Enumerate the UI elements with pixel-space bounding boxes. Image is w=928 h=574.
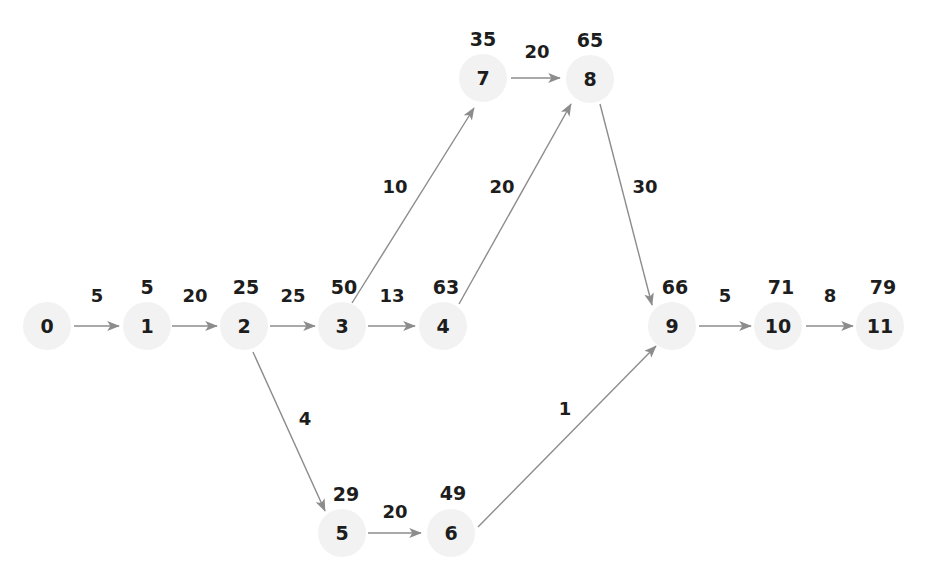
node-distance-10: 71 [768,276,794,298]
graph-canvas: 520251310202030420158 01234567891011 525… [0,0,928,574]
node-distance-layer: 525506329493565667179 [140,28,896,505]
node-label-layer: 01234567891011 [40,67,893,544]
node-distance-8: 65 [577,29,603,51]
edge-4-to-8 [459,104,571,304]
edge-8-to-9 [600,104,652,305]
node-label-9[interactable]: 9 [665,315,678,337]
edge-weight-7-to-8: 20 [524,41,549,62]
edge-weight-8-to-9: 30 [632,176,657,197]
node-label-8[interactable]: 8 [583,68,596,90]
edge-weight-6-to-9: 1 [559,398,572,419]
node-label-3[interactable]: 3 [335,315,348,337]
edge-2-to-5 [253,352,325,511]
node-distance-3: 50 [331,276,357,298]
node-label-6[interactable]: 6 [444,522,457,544]
edge-weight-1-to-2: 20 [182,285,207,306]
node-distance-6: 49 [440,482,466,504]
node-distance-11: 79 [870,276,896,298]
node-distance-2: 25 [233,276,259,298]
node-label-0[interactable]: 0 [40,315,53,337]
edge-weight-4-to-8: 20 [489,176,514,197]
node-label-5[interactable]: 5 [335,522,348,544]
edge-weight-0-to-1: 5 [91,285,104,306]
node-distance-7: 35 [470,28,496,50]
node-distance-9: 66 [662,276,688,298]
edge-weight-9-to-10: 5 [719,285,732,306]
edge-weight-10-to-11: 8 [824,285,837,306]
node-label-10[interactable]: 10 [765,315,791,337]
edge-weight-2-to-5: 4 [299,408,312,429]
node-label-2[interactable]: 2 [237,315,250,337]
node-distance-1: 5 [140,276,153,298]
node-label-7[interactable]: 7 [476,67,489,89]
edge-weight-2-to-3: 25 [280,285,305,306]
node-label-11[interactable]: 11 [867,315,893,337]
node-distance-5: 29 [333,483,359,505]
edge-weight-layer: 520251310202030420158 [91,41,837,522]
node-label-4[interactable]: 4 [436,315,449,337]
edge-weight-5-to-6: 20 [382,501,407,522]
edge-weight-3-to-7: 10 [382,176,407,197]
edge-weight-3-to-4: 13 [379,285,404,306]
edge-3-to-7 [352,108,474,303]
graph-diagram: 520251310202030420158 01234567891011 525… [0,0,928,574]
node-distance-4: 63 [433,276,459,298]
edge-6-to-9 [478,346,656,527]
node-label-1[interactable]: 1 [140,315,153,337]
